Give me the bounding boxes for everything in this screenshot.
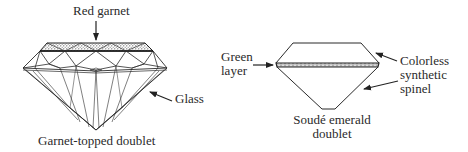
label-red-garnet: Red garnet <box>73 4 130 18</box>
glass-arrow <box>150 92 172 101</box>
label-colorless-line1: Colorless <box>400 54 449 68</box>
soude-emerald-doublet-drawing <box>276 43 379 109</box>
label-colorless-line2: synthetic <box>400 68 447 82</box>
caption-soude-line2: doublet <box>282 127 382 141</box>
label-glass: Glass <box>175 92 204 106</box>
green-layer <box>276 63 379 67</box>
colorless-spinel-crown-arrow <box>376 53 397 61</box>
label-green-layer-line1: Green <box>221 50 253 64</box>
colorless-spinel-pavilion-arrow <box>364 81 398 89</box>
caption-soude-line1: Soudé emerald <box>282 113 382 127</box>
garnet-topped-doublet-drawing <box>23 43 167 130</box>
label-green-layer-line2: layer <box>221 64 247 78</box>
diagram-canvas: Red garnet Glass Garnet-topped doublet G… <box>0 0 468 152</box>
label-colorless-line3: spinel <box>400 82 431 96</box>
caption-garnet-topped-doublet: Garnet-topped doublet <box>38 134 155 148</box>
